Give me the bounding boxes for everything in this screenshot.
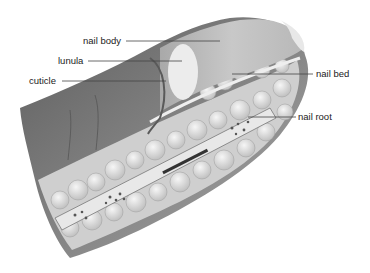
label-cuticle: cuticle	[29, 76, 56, 86]
label-nail-root: nail root	[298, 112, 332, 122]
lunula-shape	[168, 44, 198, 100]
nail-anatomy-diagram: nail body lunula cuticle nail bed nail r…	[0, 0, 370, 273]
nail-illustration	[0, 0, 370, 273]
label-nail-bed: nail bed	[316, 69, 349, 79]
label-nail-body: nail body	[83, 36, 121, 46]
label-lunula: lunula	[58, 56, 83, 66]
